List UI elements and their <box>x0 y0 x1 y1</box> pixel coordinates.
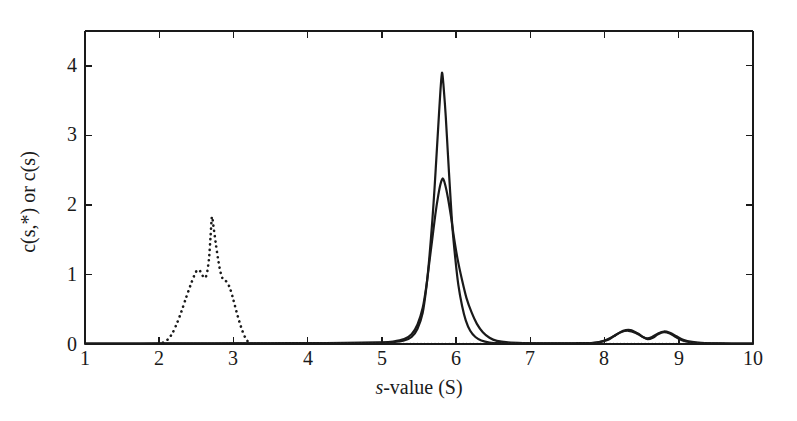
ytick-label-3: 3 <box>59 124 77 144</box>
x-axis-label: s-value (S) <box>375 376 462 399</box>
xtick-label-8: 8 <box>599 348 609 368</box>
ytick-label-2: 2 <box>59 194 77 214</box>
xtick-label-6: 6 <box>451 348 461 368</box>
y-axis-label: c(s,*) or c(s) <box>17 151 40 253</box>
xtick-label-9: 9 <box>674 348 684 368</box>
series-path-0 <box>85 73 753 344</box>
y-axis-label-wrapper: c(s,*) or c(s) <box>14 188 42 216</box>
curves-group <box>85 73 753 344</box>
xtick-label-5: 5 <box>377 348 387 368</box>
ytick-label-4: 4 <box>59 55 77 75</box>
series-path-2 <box>163 216 251 343</box>
ytick-label-0: 0 <box>59 334 77 354</box>
figure-container: 1 2 3 4 5 6 7 8 9 10 0 1 2 3 4 s-value (… <box>0 0 797 421</box>
xtick-label-3: 3 <box>228 348 238 368</box>
xtick-label-1: 1 <box>80 348 90 368</box>
xtick-label-4: 4 <box>303 348 313 368</box>
xtick-label-10: 10 <box>743 348 763 368</box>
ytick-label-1: 1 <box>59 264 77 284</box>
xtick-label-2: 2 <box>154 348 164 368</box>
x-axis-label-italic: s <box>375 376 383 398</box>
axes-frame <box>85 31 753 344</box>
series-path-1 <box>85 178 753 343</box>
x-axis-label-rest: -value (S) <box>383 376 462 398</box>
xtick-label-7: 7 <box>525 348 535 368</box>
